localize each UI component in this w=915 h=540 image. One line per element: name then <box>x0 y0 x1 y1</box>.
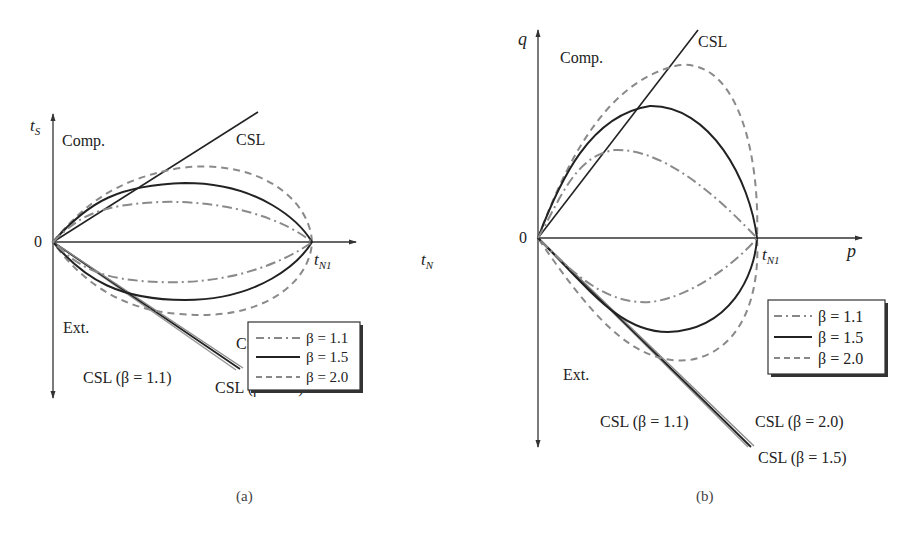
intercept-label: tN1 <box>762 245 780 266</box>
y-axis-label: tS <box>30 116 41 137</box>
x-axis-label: tN <box>421 250 434 271</box>
region-extension-label: Ext. <box>563 366 589 383</box>
x-axis-label: p <box>845 241 856 261</box>
figure-canvas: tS Comp. CSL 0 tN1 tN Ext. CSL (β = 1.1)… <box>0 0 915 540</box>
csl-label-beta-1-1: CSL (β = 1.1) <box>83 369 172 387</box>
curve-beta-2-0 <box>53 167 312 316</box>
panel-a: tS Comp. CSL 0 tN1 tN Ext. CSL (β = 1.1)… <box>30 112 434 505</box>
legend-beta-2-0: β = 2.0 <box>306 369 348 385</box>
region-compression-label: Comp. <box>62 132 105 150</box>
legend-beta-1-1: β = 1.1 <box>818 308 863 326</box>
region-compression-label: Comp. <box>560 49 603 67</box>
csl-label-beta-1-1: CSL (β = 1.1) <box>600 413 689 431</box>
legend-beta-1-5: β = 1.5 <box>306 349 348 365</box>
legend-beta-1-1: β = 1.1 <box>306 330 348 346</box>
origin-label: 0 <box>519 229 527 246</box>
csl-label: CSL <box>236 131 265 148</box>
origin-label: 0 <box>34 233 42 250</box>
y-axis-label: q <box>518 29 527 49</box>
legend-beta-1-5: β = 1.5 <box>818 329 863 347</box>
legend-beta-2-0: β = 2.0 <box>818 350 863 368</box>
csl-label: CSL <box>698 33 727 50</box>
region-extension-label: Ext. <box>63 319 89 336</box>
panel-b: q Comp. CSL 0 tN1 p Ext. CSL (β = 1.1) C… <box>518 29 888 505</box>
csl-label-beta-1-5: CSL (β = 1.5) <box>758 449 847 467</box>
legend: β = 1.1 β = 1.5 β = 2.0 <box>248 322 363 393</box>
caption-b: (b) <box>696 488 714 505</box>
curve-beta-1-5 <box>538 106 757 332</box>
legend: β = 1.1 β = 1.5 β = 2.0 <box>768 300 888 377</box>
caption-a: (a) <box>236 488 253 505</box>
intercept-label: tN1 <box>314 250 332 271</box>
curve-beta-2-0 <box>538 65 757 361</box>
csl-extension-line-2-0 <box>53 242 243 368</box>
csl-label-beta-2-0: CSL (β = 2.0) <box>755 413 844 431</box>
curve-beta-1-1 <box>538 150 757 302</box>
